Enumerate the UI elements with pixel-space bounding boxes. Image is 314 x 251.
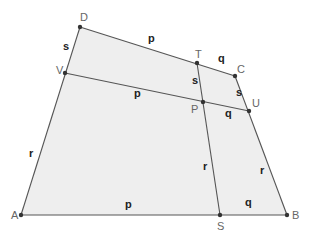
vertex-label-v: V bbox=[56, 64, 64, 76]
point-u bbox=[247, 109, 251, 113]
segment-label-sb: q bbox=[245, 196, 252, 208]
point-s bbox=[218, 213, 222, 217]
vertex-label-d: D bbox=[80, 11, 88, 23]
segment-label-cu: s bbox=[236, 86, 242, 98]
point-a bbox=[19, 213, 23, 217]
vertex-label-t: T bbox=[195, 48, 202, 60]
segment-label-ps: r bbox=[203, 160, 208, 172]
point-d bbox=[78, 25, 82, 29]
segment-label-tp: s bbox=[192, 74, 198, 86]
vertex-label-a: A bbox=[11, 209, 19, 221]
quadrilateral-diagram: ABCDTUVPS spqsspqrrrpq bbox=[0, 0, 314, 251]
vertex-label-u: U bbox=[252, 97, 260, 109]
quadrilateral-abcd-fill bbox=[21, 27, 287, 215]
vertex-label-c: C bbox=[237, 63, 245, 75]
vertex-label-p: P bbox=[191, 103, 198, 115]
segment-label-pu: q bbox=[225, 107, 232, 119]
point-t bbox=[195, 61, 199, 65]
segment-label-ub: r bbox=[260, 164, 265, 176]
segment-label-tc: q bbox=[218, 52, 225, 64]
vertex-label-s: S bbox=[217, 220, 224, 232]
segment-label-as: p bbox=[125, 198, 132, 210]
segment-label-dv: s bbox=[63, 40, 69, 52]
point-b bbox=[285, 213, 289, 217]
point-p bbox=[201, 100, 205, 104]
segment-label-vp: p bbox=[134, 87, 141, 99]
segment-label-dt: p bbox=[148, 32, 155, 44]
vertex-label-b: B bbox=[292, 209, 299, 221]
segment-label-va: r bbox=[29, 147, 34, 159]
point-v bbox=[63, 71, 67, 75]
